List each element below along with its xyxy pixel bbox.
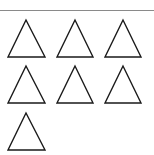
triangle-icon xyxy=(8,66,45,103)
triangle-icon xyxy=(57,20,93,57)
triangle-icon xyxy=(105,66,141,103)
triangle-icon xyxy=(8,20,45,57)
triangle-icon xyxy=(8,113,45,150)
triangle-icon xyxy=(105,20,141,57)
triangle-icon xyxy=(57,66,93,103)
triangle-grid xyxy=(0,0,154,155)
